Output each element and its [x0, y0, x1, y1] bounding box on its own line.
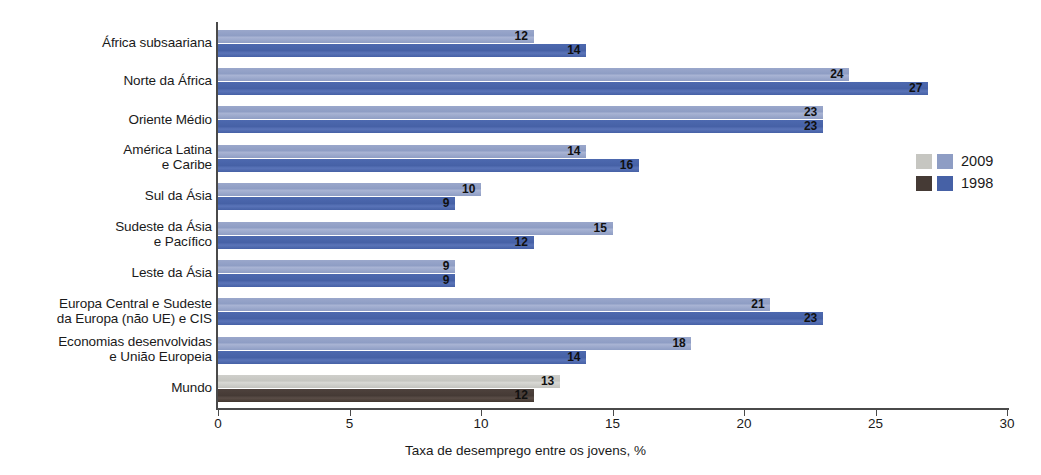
- x-axis-title: Taxa de desemprego entre os jovens, %: [0, 443, 1041, 458]
- legend-item: 2009: [916, 150, 993, 172]
- x-tick-label: 5: [346, 416, 354, 431]
- bar-value-label: 27: [909, 82, 922, 95]
- bar-group: 2123: [218, 293, 1007, 331]
- bar-group: 1312: [218, 370, 1007, 408]
- bar-2009: [218, 145, 586, 158]
- bar-value-label: 14: [567, 351, 580, 364]
- bar-value-label: 12: [515, 30, 528, 43]
- legend-swatch-blue: [937, 154, 953, 169]
- bar-value-label: 23: [804, 120, 817, 133]
- category-label: América Latina e Caribe: [0, 142, 212, 172]
- category-label: África subsaariana: [0, 35, 212, 50]
- legend-swatch-gray: [916, 176, 932, 191]
- bar-2009: [218, 106, 823, 119]
- x-tick-label: 15: [605, 416, 620, 431]
- legend-swatch-gray: [916, 154, 932, 169]
- legend-swatch-blue: [937, 176, 953, 191]
- category-label: Oriente Médio: [0, 112, 212, 127]
- chart-legend: 20091998: [916, 150, 993, 194]
- bar-group: 1814: [218, 331, 1007, 369]
- category-label: Sul da Ásia: [0, 188, 212, 203]
- bar-2009: [218, 68, 849, 81]
- x-tick-label: 25: [868, 416, 883, 431]
- bar-value-label: 16: [620, 159, 633, 172]
- bar-value-label: 12: [515, 236, 528, 249]
- bar-2009: [218, 222, 613, 235]
- bar-value-label: 9: [443, 260, 450, 273]
- x-tick-label: 0: [214, 416, 222, 431]
- bar-1998: [218, 236, 534, 249]
- bar-2009: [218, 375, 560, 388]
- bar-1998: [218, 159, 639, 172]
- bar-group: 2323: [218, 101, 1007, 139]
- bar-value-label: 14: [567, 145, 580, 158]
- legend-label: 2009: [961, 153, 993, 169]
- bar-1998: [218, 351, 586, 364]
- bar-value-label: 24: [830, 68, 843, 81]
- bar-group: 109: [218, 178, 1007, 216]
- bar-value-label: 23: [804, 312, 817, 325]
- bar-2009: [218, 30, 534, 43]
- bar-1998: [218, 274, 455, 287]
- bar-value-label: 12: [515, 389, 528, 402]
- bar-value-label: 15: [594, 222, 607, 235]
- bar-group: 2427: [218, 62, 1007, 100]
- category-label: Leste da Ásia: [0, 265, 212, 280]
- bar-2009: [218, 337, 691, 350]
- bar-2009: [218, 183, 481, 196]
- bar-2009: [218, 298, 770, 311]
- bar-1998: [218, 82, 928, 95]
- bar-group: 1512: [218, 216, 1007, 254]
- bar-group: 99: [218, 254, 1007, 292]
- category-label: Economias desenvolvidas e União Europeia: [0, 334, 212, 364]
- bar-value-label: 23: [804, 106, 817, 119]
- bar-1998: [218, 120, 823, 133]
- bar-value-label: 18: [672, 337, 685, 350]
- legend-item: 1998: [916, 172, 993, 194]
- bar-2009: [218, 260, 455, 273]
- category-axis-labels: África subsaarianaNorte da ÁfricaOriente…: [0, 24, 212, 408]
- category-label: Mundo: [0, 380, 212, 395]
- x-tick-label: 10: [473, 416, 488, 431]
- bar-1998: [218, 312, 823, 325]
- legend-label: 1998: [961, 175, 993, 191]
- bar-1998: [218, 197, 455, 210]
- bar-value-label: 13: [541, 375, 554, 388]
- bar-value-label: 21: [751, 298, 764, 311]
- youth-unemployment-bar-chart: África subsaarianaNorte da ÁfricaOriente…: [0, 0, 1041, 475]
- bar-value-label: 9: [443, 197, 450, 210]
- bar-value-label: 14: [567, 44, 580, 57]
- x-tick-label: 30: [999, 416, 1014, 431]
- x-tick-label: 20: [736, 416, 751, 431]
- bar-group: 1214: [218, 24, 1007, 62]
- category-label: Sudeste da Ásia e Pacífico: [0, 219, 212, 249]
- category-label: Europa Central e Sudeste da Europa (não …: [0, 296, 212, 326]
- bar-1998: [218, 44, 586, 57]
- bar-group: 1416: [218, 139, 1007, 177]
- bar-1998: [218, 389, 534, 402]
- bar-value-label: 10: [462, 183, 475, 196]
- bar-value-label: 9: [443, 274, 450, 287]
- plot-area: 1214242723231416109151299212318141312: [218, 24, 1007, 408]
- category-label: Norte da África: [0, 73, 212, 88]
